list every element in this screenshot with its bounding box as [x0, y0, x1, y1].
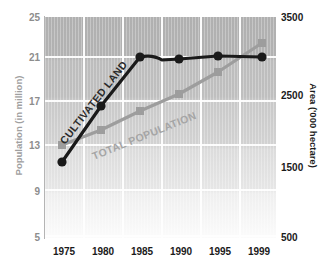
data-point-marker [57, 157, 66, 166]
y-axis-right-tick: 3500 [281, 12, 324, 23]
y-axis-right-tick: 500 [281, 232, 324, 243]
y-axis-left-tick: 13 [0, 140, 40, 151]
data-point-marker [97, 126, 105, 134]
data-point-marker [175, 90, 183, 98]
y-axis-left-tick: 17 [0, 96, 40, 107]
plot-area: CULTIVATED LAND TOTAL POPULATION [45, 17, 276, 238]
y-axis-left-tick: 21 [0, 52, 40, 63]
chart-svg: CULTIVATED LAND TOTAL POPULATION [45, 17, 276, 238]
data-point-marker [214, 68, 222, 76]
y-axis-right-tick: 2500 [281, 90, 324, 101]
y-axis-right-tick: 1500 [281, 162, 324, 173]
data-point-marker [257, 52, 266, 61]
data-point-marker [136, 107, 144, 115]
data-point-marker [135, 52, 144, 61]
data-point-marker [174, 54, 183, 63]
chart-container: Population (in million) Area ('000 hecta… [0, 0, 324, 268]
y-axis-left-tick: 9 [0, 186, 40, 197]
y-axis-right-title: Area ('000 hectare) [308, 56, 319, 196]
y-axis-left-tick: 25 [0, 12, 40, 23]
x-axis-tick: 1999 [235, 246, 283, 257]
y-axis-left-tick: 5 [0, 232, 40, 243]
data-point-marker [213, 51, 222, 60]
y-axis-left-title: Population (in million) [13, 56, 24, 196]
data-point-marker [258, 39, 266, 47]
